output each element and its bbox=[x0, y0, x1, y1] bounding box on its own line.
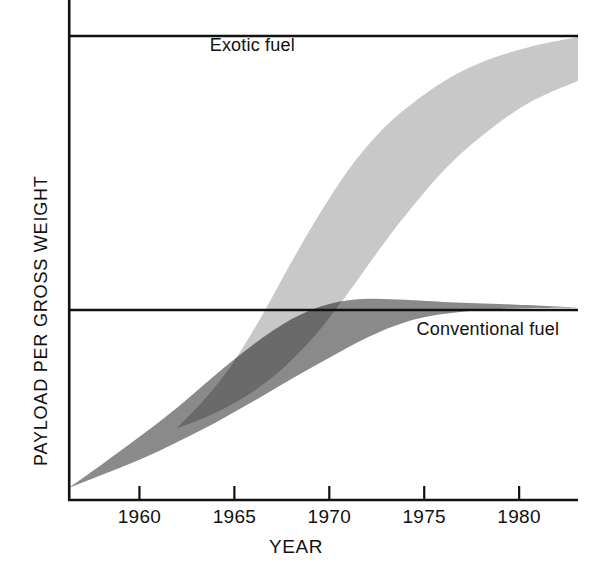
x-axis-tick-label: 1960 bbox=[118, 506, 161, 528]
y-axis-title: PAYLOAD PER GROSS WEIGHT bbox=[28, 0, 54, 466]
x-axis-tick-label: 1975 bbox=[402, 506, 445, 528]
x-axis-title: YEAR bbox=[269, 536, 323, 558]
x-axis-tick-label: 1980 bbox=[497, 506, 540, 528]
x-axis-tick-label: 1970 bbox=[308, 506, 351, 528]
plot-area bbox=[0, 0, 592, 567]
chart-figure: 19601965197019751980 YEAR PAYLOAD PER GR… bbox=[0, 0, 592, 567]
band-label-exotic-fuel: Exotic fuel bbox=[210, 35, 295, 56]
x-axis-tick-marks bbox=[139, 486, 519, 499]
band-label-conventional-fuel: Conventional fuel bbox=[417, 319, 560, 340]
x-axis-tick-label: 1965 bbox=[213, 506, 256, 528]
